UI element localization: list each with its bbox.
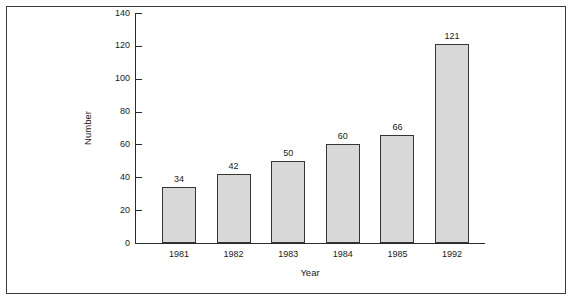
y-axis-tick-label: 40 bbox=[92, 173, 130, 182]
y-axis-tick bbox=[136, 13, 142, 14]
y-axis-tick-label: 20 bbox=[92, 206, 130, 215]
y-axis-tick bbox=[136, 112, 142, 113]
y-axis-tick-label: 0 bbox=[92, 239, 130, 248]
y-axis-title-label: Number bbox=[83, 111, 93, 145]
y-axis-tick-label-text: 80 bbox=[94, 107, 130, 116]
x-axis-tick-label-1981: 1981 bbox=[152, 249, 206, 259]
bar-value-label-1984: 60 bbox=[318, 132, 368, 141]
x-axis-tick-label-1983: 1983 bbox=[261, 249, 315, 259]
y-axis-tick-label: 80 bbox=[92, 107, 130, 116]
y-axis-tick-label-text: 0 bbox=[94, 239, 130, 248]
y-axis-tick-label: 120 bbox=[92, 41, 130, 50]
bar-value-label-1983: 50 bbox=[263, 149, 313, 158]
y-axis-tick-label-text: 100 bbox=[94, 74, 130, 83]
bar-value-label-1981: 34 bbox=[154, 175, 204, 184]
x-axis-line bbox=[135, 243, 485, 244]
y-axis-tick bbox=[136, 144, 142, 145]
bar-1992 bbox=[435, 44, 469, 243]
y-axis-tick-label-text: 140 bbox=[94, 9, 130, 18]
x-axis-tick-label-1992: 1992 bbox=[425, 249, 479, 259]
bar-value-label-1985: 66 bbox=[372, 123, 422, 132]
y-axis-tick-label: 60 bbox=[92, 140, 130, 149]
y-axis-tick bbox=[136, 243, 142, 244]
bar-1985 bbox=[380, 135, 414, 243]
bar-1981 bbox=[162, 187, 196, 243]
x-axis-title: Year bbox=[135, 268, 485, 278]
y-axis-tick bbox=[136, 210, 142, 211]
bar-1982 bbox=[217, 174, 251, 243]
y-axis-tick-label: 100 bbox=[92, 74, 130, 83]
bar-1983 bbox=[271, 161, 305, 243]
y-axis-tick bbox=[136, 177, 142, 178]
x-axis-tick-label-1982: 1982 bbox=[207, 249, 261, 259]
y-axis-tick-label-text: 20 bbox=[94, 206, 130, 215]
bar-1984 bbox=[326, 144, 360, 243]
x-axis-tick-label-1985: 1985 bbox=[370, 249, 424, 259]
bar-value-label-1982: 42 bbox=[209, 162, 259, 171]
y-axis-tick-label-text: 40 bbox=[94, 173, 130, 182]
y-axis-tick-label-text: 120 bbox=[94, 41, 130, 50]
y-axis-tick-label: 140 bbox=[92, 9, 130, 18]
y-axis-tick bbox=[136, 79, 142, 80]
y-axis-tick-label-text: 60 bbox=[94, 140, 130, 149]
x-axis-tick-label-1984: 1984 bbox=[316, 249, 370, 259]
y-axis-tick bbox=[136, 46, 142, 47]
chart-figure: 020406080100120140 Number 3442506066121 … bbox=[0, 0, 573, 301]
bar-chart-plot-area: 020406080100120140 Number 3442506066121 … bbox=[0, 0, 573, 301]
bar-value-label-1992: 121 bbox=[427, 32, 477, 41]
